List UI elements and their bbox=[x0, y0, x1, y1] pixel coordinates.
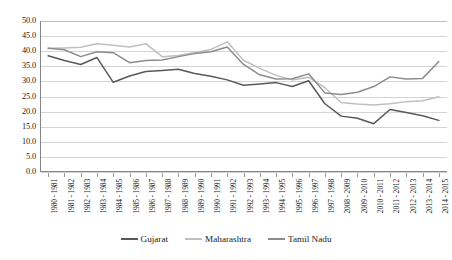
x-axis-tick-label: 2012 - 2013 bbox=[410, 179, 418, 214]
y-axis-tick-label: 50.0 bbox=[0, 17, 36, 25]
x-axis-tick-label: 1997 - 1998 bbox=[328, 179, 336, 214]
x-axis-tick-mark bbox=[244, 173, 245, 177]
x-axis-tick-label: 1989 - 1990 bbox=[198, 179, 206, 214]
y-axis-tick-label: 30.0 bbox=[0, 77, 36, 85]
line-chart: 50.045.040.035.030.025.020.015.010.05.00… bbox=[0, 0, 452, 260]
y-axis-tick-label: 40.0 bbox=[0, 47, 36, 55]
x-axis-tick-label: 2010 - 2011 bbox=[377, 179, 385, 213]
series-line-gujarat bbox=[48, 56, 439, 124]
x-axis-tick-label: 1982 - 1983 bbox=[84, 179, 92, 214]
legend-item-gujarat[interactable]: Gujarat bbox=[121, 234, 169, 244]
x-axis-tick-label: 1988 - 1989 bbox=[182, 179, 190, 214]
x-axis-tick-mark bbox=[64, 173, 65, 177]
y-axis-tick-label: 5.0 bbox=[0, 153, 36, 161]
legend-swatch bbox=[121, 238, 138, 240]
series-line-tamil-nadu bbox=[48, 47, 439, 94]
x-axis-tick-mark bbox=[325, 173, 326, 177]
x-axis-tick-mark bbox=[260, 173, 261, 177]
x-axis-tick-label: 1984 - 1985 bbox=[116, 179, 124, 214]
y-axis-tick-label: 20.0 bbox=[0, 108, 36, 116]
legend-swatch bbox=[268, 238, 285, 240]
legend-label: Gujarat bbox=[141, 234, 169, 244]
x-axis-tick-mark bbox=[178, 173, 179, 177]
legend-item-maharashtra[interactable]: Maharashtra bbox=[185, 234, 251, 244]
x-axis-tick-mark bbox=[406, 173, 407, 177]
x-axis-tick-mark bbox=[48, 173, 49, 177]
x-axis-tick-label: 1994 - 1995 bbox=[279, 179, 287, 214]
legend-item-tamil-nadu[interactable]: Tamil Nadu bbox=[268, 234, 332, 244]
y-axis-tick-label: 0.0 bbox=[0, 168, 36, 176]
x-axis-tick-mark bbox=[390, 173, 391, 177]
x-axis-tick-label: 1985 - 1986 bbox=[133, 179, 141, 214]
x-axis-tick-label: 1991 - 1992 bbox=[230, 179, 238, 214]
x-axis-tick-mark bbox=[162, 173, 163, 177]
x-axis-tick-label: 2014 - 2015 bbox=[442, 179, 450, 214]
legend-label: Tamil Nadu bbox=[288, 234, 332, 244]
x-axis-tick-mark bbox=[211, 173, 212, 177]
x-axis-tick-label: 1987 - 1988 bbox=[165, 179, 173, 214]
x-axis-tick-mark bbox=[146, 173, 147, 177]
x-axis-tick-mark bbox=[227, 173, 228, 177]
x-axis-tick-label: 2009 - 2010 bbox=[361, 179, 369, 214]
x-axis-tick-mark bbox=[130, 173, 131, 177]
x-axis-tick-mark bbox=[81, 173, 82, 177]
x-axis-tick-label: 1995 - 1996 bbox=[296, 179, 304, 214]
x-axis-labels: 1980 - 19811981 - 19821982 - 19831983 - … bbox=[40, 173, 447, 229]
x-axis-tick-mark bbox=[374, 173, 375, 177]
x-axis-tick-mark bbox=[276, 173, 277, 177]
x-axis-tick-mark bbox=[423, 173, 424, 177]
y-axis-tick-label: 15.0 bbox=[0, 123, 36, 131]
legend-label: Maharashtra bbox=[205, 234, 251, 244]
x-axis-tick-mark bbox=[439, 173, 440, 177]
x-axis-tick-label: 2008 - 2009 bbox=[344, 179, 352, 214]
x-axis-tick-mark bbox=[357, 173, 358, 177]
x-axis-tick-label: 1980 - 1981 bbox=[51, 179, 59, 214]
x-axis-tick-label: 2011 - 2012 bbox=[393, 179, 401, 213]
x-axis-tick-label: 1992 - 1993 bbox=[247, 179, 255, 214]
y-axis-labels: 50.045.040.035.030.025.020.015.010.05.00… bbox=[0, 21, 37, 172]
x-axis-tick-mark bbox=[97, 173, 98, 177]
x-axis-tick-mark bbox=[113, 173, 114, 177]
x-axis-tick-mark bbox=[341, 173, 342, 177]
y-axis-tick-label: 10.0 bbox=[0, 138, 36, 146]
y-axis-tick-label: 25.0 bbox=[0, 93, 36, 101]
y-axis-tick-label: 35.0 bbox=[0, 62, 36, 70]
x-axis-tick-label: 1993 - 1994 bbox=[263, 179, 271, 214]
x-axis-tick-mark bbox=[309, 173, 310, 177]
y-axis-tick-label: 45.0 bbox=[0, 32, 36, 40]
chart-legend: GujaratMaharashtraTamil Nadu bbox=[0, 234, 452, 244]
x-axis-tick-label: 1983 - 1984 bbox=[100, 179, 108, 214]
x-axis-tick-mark bbox=[292, 173, 293, 177]
x-axis-tick-label: 2013 - 2014 bbox=[426, 179, 434, 214]
legend-swatch bbox=[185, 238, 202, 240]
x-axis-tick-label: 1981 - 1982 bbox=[68, 179, 76, 214]
data-series-layer bbox=[40, 21, 447, 172]
x-axis-tick-label: 1996 - 1997 bbox=[312, 179, 320, 214]
x-axis-tick-label: 1986 - 1987 bbox=[149, 179, 157, 214]
x-axis-tick-mark bbox=[195, 173, 196, 177]
x-axis-tick-label: 1990 - 1991 bbox=[214, 179, 222, 214]
